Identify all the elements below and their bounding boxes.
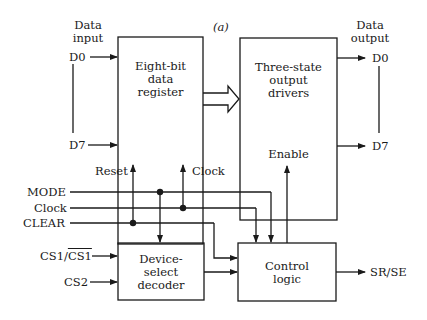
drivers-label-3: drivers [240, 87, 337, 100]
clock-in-label: Clock [192, 165, 225, 178]
block-diagram-lines [0, 0, 427, 320]
input-d7-label: D7 [69, 139, 86, 152]
cs1-bar-text: CS1 [68, 249, 92, 263]
clock-label: Clock [34, 202, 67, 215]
cs2-label: CS2 [64, 276, 88, 289]
control-label-2: logic [238, 273, 336, 286]
data-output-title-2: output [350, 32, 390, 45]
enable-label: Enable [240, 148, 337, 161]
reset-label: Reset [95, 165, 128, 178]
output-d7-label: D7 [372, 140, 389, 153]
sr-se-label: SR/SE [370, 266, 407, 279]
figure-label: (a) [213, 21, 229, 34]
cs1-text: CS1/ [40, 249, 68, 263]
mode-label: MODE [27, 186, 66, 199]
clear-label: CLEAR [23, 217, 65, 230]
output-d0-label: D0 [372, 52, 389, 65]
decoder-label-3: decoder [118, 279, 204, 292]
cs1-label: CS1/CS1 [40, 250, 92, 263]
input-d0-label: D0 [69, 51, 86, 64]
register-label-3: register [118, 86, 203, 99]
data-input-title-2: input [70, 32, 106, 45]
